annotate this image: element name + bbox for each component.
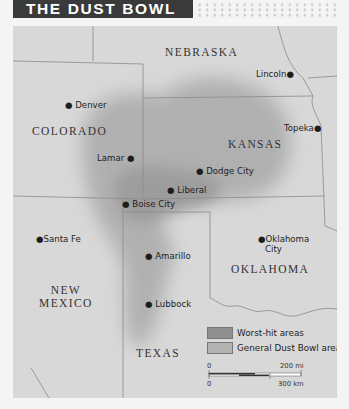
scale-zero-mi: 0 [207, 362, 211, 370]
city-label: Lubbock [155, 299, 191, 309]
state-label-colorado: COLORADO [32, 125, 107, 138]
map-title: THE DUST BOWL [13, 0, 193, 18]
legend-swatch-general-area [207, 342, 233, 354]
state-label-kansas: KANSAS [228, 138, 282, 151]
scale-km-label: 300 km [278, 380, 304, 388]
city-topeka: Topeka● [284, 123, 321, 133]
city-label-line1: Oklahoma [266, 234, 310, 244]
city-lincoln: Lincoln● [256, 69, 294, 79]
dust-bowl-map: NEBRASKA COLORADO KANSAS NEW MEXICO OKLA… [13, 26, 337, 398]
city-label: Dodge City [206, 166, 254, 176]
scale-bar [209, 370, 301, 379]
city-label: Topeka [284, 123, 314, 133]
city-label-line2: City [258, 244, 309, 254]
city-label: Denver [75, 100, 106, 110]
city-oklahoma-city: ●Oklahoma City [258, 234, 309, 254]
city-label: Liberal [177, 185, 206, 195]
scale-mi-label: 200 mi [280, 362, 304, 370]
legend-swatch-worst-hit [207, 327, 233, 339]
city-boise-city: ● Boise City [122, 199, 175, 209]
scale-zero-km: 0 [207, 380, 211, 388]
city-label: Lamar [97, 153, 124, 163]
legend-label: General Dust Bowl area [237, 343, 337, 353]
city-label: Amarillo [155, 251, 190, 261]
state-label-new-mexico: NEW MEXICO [39, 284, 93, 310]
city-label: Lincoln [256, 69, 286, 79]
city-liberal: ● Liberal [167, 185, 206, 195]
city-denver: ● Denver [65, 100, 107, 110]
state-label-new-mexico-line1: NEW [39, 284, 93, 297]
city-label: Boise City [132, 199, 175, 209]
legend-general-area: General Dust Bowl area [207, 342, 337, 354]
legend-worst-hit: Worst-hit areas [207, 327, 304, 339]
legend-label: Worst-hit areas [237, 328, 304, 338]
state-label-new-mexico-line2: MEXICO [39, 297, 93, 310]
state-label-nebraska: NEBRASKA [165, 46, 238, 59]
city-label: Santa Fe [44, 234, 81, 244]
city-santa-fe: ●Santa Fe [36, 234, 81, 244]
city-amarillo: ● Amarillo [145, 251, 191, 261]
city-dodge-city: ● Dodge City [196, 166, 254, 176]
state-label-oklahoma: OKLAHOMA [231, 263, 309, 276]
city-lamar: Lamar ● [97, 153, 134, 163]
decorative-dot-pattern [196, 2, 336, 18]
city-lubbock: ● Lubbock [145, 299, 191, 309]
state-label-texas: TEXAS [136, 347, 180, 360]
